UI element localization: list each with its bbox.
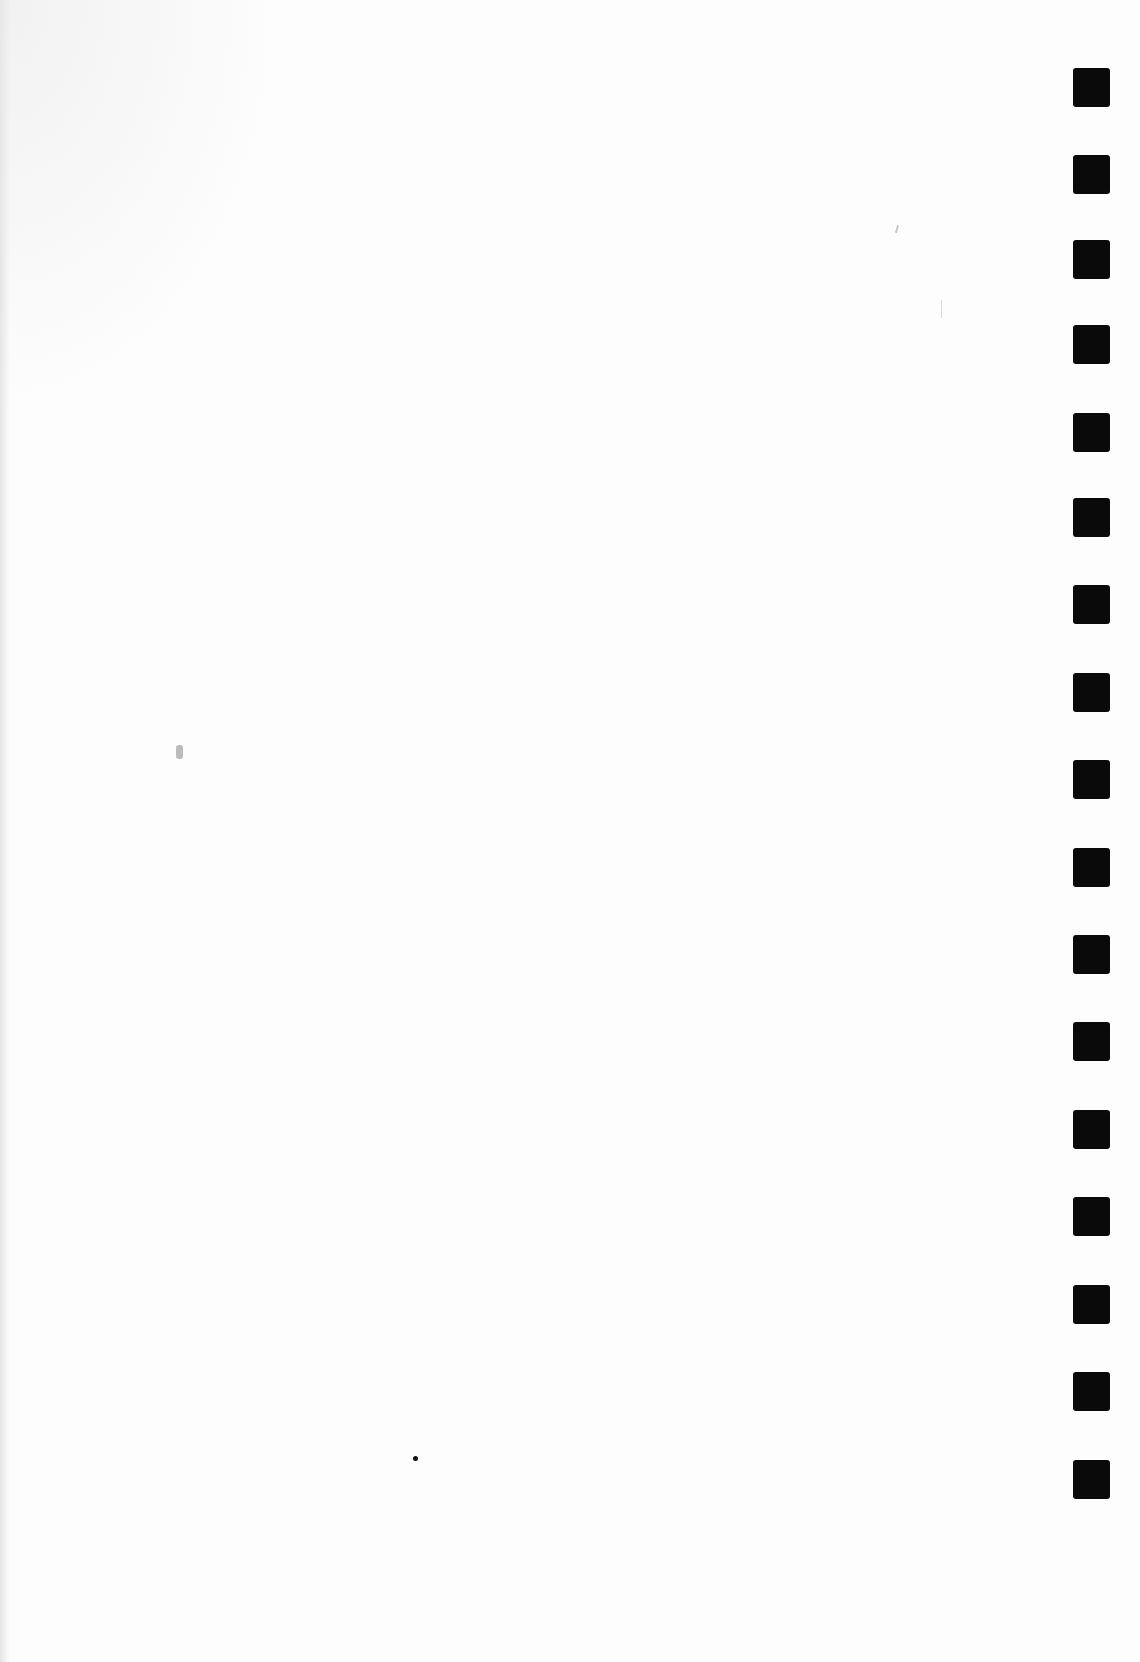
binding-hole-mark — [1073, 413, 1110, 452]
binding-hole-mark — [1073, 1022, 1110, 1061]
binding-hole-mark — [1073, 673, 1110, 712]
binding-hole-mark — [1073, 760, 1110, 799]
binding-hole-mark — [1073, 848, 1110, 887]
binding-hole-mark — [1073, 240, 1110, 279]
binding-hole-mark — [1073, 325, 1110, 364]
binding-hole-mark — [1073, 585, 1110, 624]
binding-hole-mark — [1073, 1197, 1110, 1236]
binding-hole-mark — [1073, 498, 1110, 537]
binding-hole-mark — [1073, 935, 1110, 974]
binding-hole-mark — [1073, 1110, 1110, 1149]
binding-hole-mark — [1073, 1285, 1110, 1324]
binding-hole-mark — [1073, 155, 1110, 194]
binding-hole-mark — [1073, 1460, 1110, 1499]
scan-shadow-edge — [0, 0, 10, 1662]
scan-smudge — [176, 745, 183, 759]
scanned-page — [0, 0, 1140, 1662]
stray-dot — [413, 1456, 418, 1461]
binding-hole-mark — [1073, 68, 1110, 107]
faint-mark — [941, 300, 942, 318]
faint-mark — [895, 225, 899, 233]
binding-strip — [1073, 0, 1113, 1662]
binding-hole-mark — [1073, 1372, 1110, 1411]
